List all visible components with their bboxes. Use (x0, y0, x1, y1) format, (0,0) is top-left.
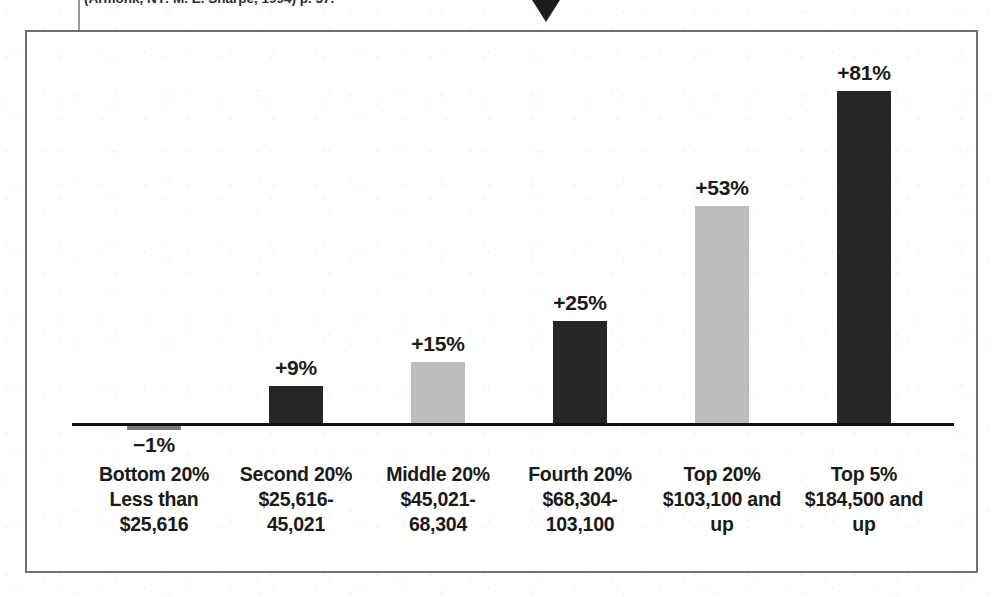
bar-value-label: +9% (275, 356, 317, 380)
bar-caption-line: 45,021 (225, 512, 367, 537)
citation-fragment: (Armonk, NY: M. E. Sharpe, 1994) p. 57. (84, 0, 334, 6)
bar-value-label: +25% (553, 291, 607, 315)
bar (553, 321, 607, 424)
bar (269, 386, 323, 423)
bar-category-caption: Top 5%$184,500 andup (793, 462, 935, 537)
figure-frame: −1%Bottom 20%Less than$25,616+9%Second 2… (25, 30, 978, 573)
bar-caption-line: Middle 20% (367, 462, 509, 487)
bar-caption-line: up (651, 512, 793, 537)
bar-caption-line: $68,304- (509, 487, 651, 512)
column-rule (78, 0, 80, 30)
bar-category-caption: Second 20%$25,616-45,021 (225, 462, 367, 537)
bar-value-label: +81% (837, 61, 891, 85)
bar-caption-line: $45,021- (367, 487, 509, 512)
bar (695, 206, 749, 423)
bar-category-caption: Fourth 20%$68,304-103,100 (509, 462, 651, 537)
bar-caption-line: $103,100 and (651, 487, 793, 512)
plot-area: −1%Bottom 20%Less than$25,616+9%Second 2… (27, 32, 980, 575)
bar (411, 362, 465, 424)
bar-caption-line: Second 20% (225, 462, 367, 487)
bar-value-label: +15% (411, 332, 465, 356)
bar-category-caption: Middle 20%$45,021-68,304 (367, 462, 509, 537)
bar (837, 91, 891, 423)
bar-caption-line: Bottom 20% (83, 462, 225, 487)
scan-top-margin: (Armonk, NY: M. E. Sharpe, 1994) p. 57. (0, 0, 997, 30)
down-triangle-icon (527, 0, 565, 22)
bar-caption-line: 68,304 (367, 512, 509, 537)
bar-category-caption: Bottom 20%Less than$25,616 (83, 462, 225, 537)
bar-caption-line: 103,100 (509, 512, 651, 537)
bar-caption-line: Less than (83, 487, 225, 512)
bar-caption-line: $184,500 and (793, 487, 935, 512)
bar-caption-line: up (793, 512, 935, 537)
bar-value-label: −1% (133, 433, 175, 457)
bar-category-caption: Top 20%$103,100 andup (651, 462, 793, 537)
bar-value-label: +53% (695, 176, 749, 200)
bar-group: +25%Fourth 20%$68,304-103,100 (509, 32, 651, 575)
bar-group: +53%Top 20%$103,100 andup (651, 32, 793, 575)
bar-caption-line: $25,616- (225, 487, 367, 512)
bar-caption-line: Top 5% (793, 462, 935, 487)
bar-caption-line: Fourth 20% (509, 462, 651, 487)
bar-group: −1%Bottom 20%Less than$25,616 (83, 32, 225, 575)
bar-caption-line: Top 20% (651, 462, 793, 487)
bar (127, 426, 181, 430)
bar-group: +9%Second 20%$25,616-45,021 (225, 32, 367, 575)
bar-group: +81%Top 5%$184,500 andup (793, 32, 935, 575)
bar-caption-line: $25,616 (83, 512, 225, 537)
bar-group: +15%Middle 20%$45,021-68,304 (367, 32, 509, 575)
